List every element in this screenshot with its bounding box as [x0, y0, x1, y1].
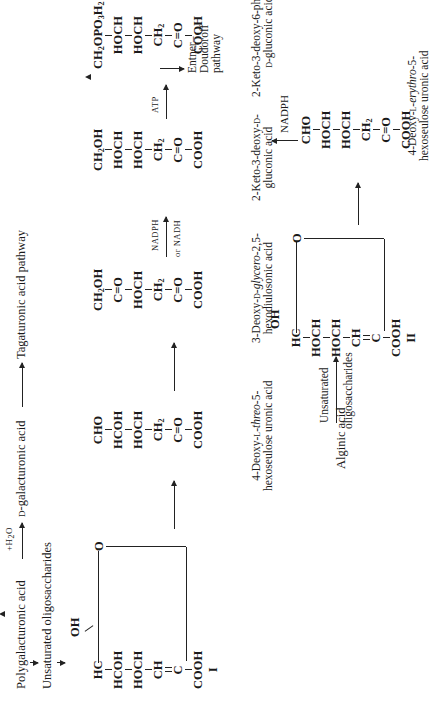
unsaturated-oligosaccharides-label: Unsaturated oligosaccharides [40, 542, 55, 689]
phosphorylation-arrow-icon [166, 85, 167, 119]
reduction-arrow-icon [166, 217, 167, 257]
group: CH2 [152, 24, 165, 47]
bond [85, 625, 94, 632]
group: COOH [192, 651, 205, 689]
nadh-label: or NADH [172, 220, 182, 257]
group: C [370, 333, 383, 342]
group: HCOH [112, 411, 125, 449]
group: CH [350, 329, 363, 348]
ring-bond [296, 241, 297, 333]
pathway-diagram: Polygalacturonic acid +H2O d-galacturoni… [0, 0, 441, 709]
group: CH2 [152, 279, 165, 302]
group: HOCH [132, 131, 145, 169]
group: HOCH [112, 16, 125, 54]
roman-numeral-label: II [405, 333, 418, 343]
group: CH2 [152, 419, 165, 442]
erythro-compound-name: 4-Deoxy-l-erythro-5-hexoseulose uronic a… [406, 51, 430, 162]
group: HOCH [340, 111, 353, 149]
group: C=O [380, 117, 393, 143]
group: HOCH [112, 131, 125, 169]
compound-II-chain: HC HOCH HOCH CH C COOH II [290, 319, 418, 357]
ring-bond [186, 547, 187, 661]
nadph-label: NADPH [150, 219, 160, 251]
nadph-reduction-arrow-icon [272, 140, 298, 141]
group: COOH [390, 319, 403, 357]
h2o-label: +H2O [4, 527, 14, 551]
group: HOCH [132, 16, 145, 54]
ring-bond [106, 546, 186, 547]
compound-erythro-chain: CHO HOCH HOCH CH2 C=O COOH [300, 111, 413, 149]
ring-bond [98, 551, 99, 663]
group: C=O [172, 137, 185, 163]
group: HCOH [112, 651, 125, 689]
group: CHO [92, 416, 105, 444]
compound-diketo: CH2OH C=O HOCH CH2 C=O COOH [92, 269, 205, 311]
to-entner-arrow-icon [160, 68, 184, 69]
hydrolysis-arrow-icon [22, 523, 23, 559]
group: C=O [172, 417, 185, 443]
tagaturonic-pathway-label: Tagaturonic acid pathway [14, 230, 29, 359]
ring-bond [384, 239, 385, 331]
unsaturated-label: Unsaturated [318, 367, 330, 423]
group: HOCH [132, 411, 145, 449]
compound-I-chain: HC HCOH HOCH CH C COOH I [92, 651, 220, 689]
reaction-arrow-icon [174, 481, 175, 529]
group: COOH [192, 131, 205, 169]
alginate-lyase-arrow-icon [336, 357, 337, 423]
group: C [172, 665, 185, 674]
oh-group: OH [68, 618, 83, 637]
group: HOCH [132, 271, 145, 309]
roman-numeral-label: I [207, 667, 220, 672]
group: CH2 [152, 139, 165, 162]
group: C=O [172, 277, 185, 303]
compound-threo: CHO HCOH HOCH CH2 C=O COOH [92, 411, 205, 449]
ring-bond [304, 238, 384, 239]
group: C=O [112, 277, 125, 303]
polygalacturonic-acid-label: Polygalacturonic acid [14, 580, 29, 689]
nadph-label-2: NADPH [278, 95, 290, 133]
down-arrow-icon [57, 662, 65, 663]
oh-group: OH [268, 310, 283, 329]
group: C=O [172, 22, 185, 48]
group: HOCH [310, 319, 323, 357]
ring-oxygen: O [92, 541, 107, 551]
reaction-arrow-icon [174, 343, 175, 391]
atp-label: ATP [150, 96, 160, 113]
d-galacturonic-acid-label: d-galacturonic acid [14, 421, 29, 517]
group: HOCH [132, 651, 145, 689]
kdg-compound-name: 2-Keto-3-deoxy-d-gluconic acid [250, 114, 274, 201]
to-tagaturonic-arrow-icon [22, 363, 23, 407]
group: CH2OH [92, 129, 105, 171]
compound-kdg: CH2OH HOCH HOCH CH2 C=O COOH [92, 129, 205, 171]
threo-compound-name: 4-Deoxy-l-threo-5-hexoseulose uronic aci… [250, 381, 274, 492]
ring-oxygen: O [290, 233, 305, 243]
group: COOH [192, 271, 205, 309]
group: CH [152, 661, 165, 680]
group: HOCH [320, 111, 333, 149]
oligosaccharides-label: oligosaccharides [342, 352, 354, 429]
group: CHO [300, 116, 313, 144]
group: COOH [192, 411, 205, 449]
reaction-arrow-icon [358, 183, 359, 225]
group: HC [92, 661, 105, 680]
group: CH2OPO3H2 [92, 1, 105, 69]
group: CH2OH [92, 269, 105, 311]
kdpg-compound-name: 2-Keto-3-deoxy-6-phospho-d-gluconic acid [250, 0, 274, 97]
group: CH2 [360, 119, 373, 142]
entner-doudoroff-label: Entner–Doudoroffpathway [186, 25, 222, 73]
down-arrow-icon [30, 662, 38, 663]
